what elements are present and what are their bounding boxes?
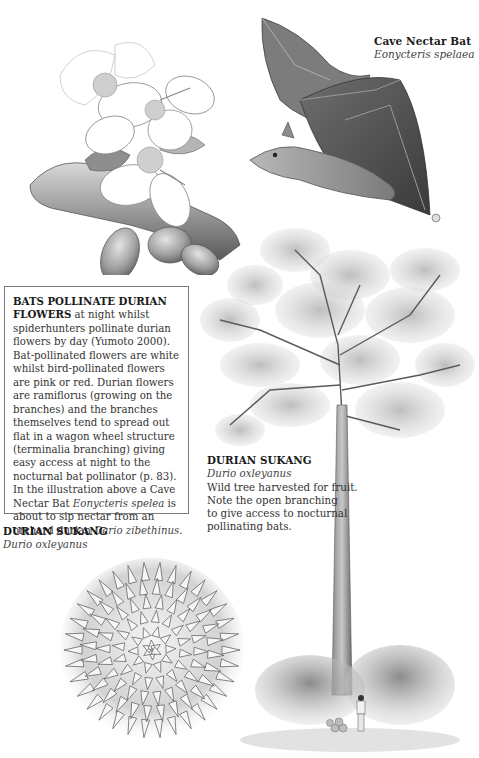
fruit-caption-title: DURIAN SUKANG — [3, 525, 108, 538]
tree-caption-latin: Durio oxleyanus — [207, 467, 358, 480]
bat-pollination-info-box: BATS POLLINATE DURIAN FLOWERS at night w… — [4, 286, 189, 514]
bat-caption-latin: Eonycteris spelaea — [374, 48, 475, 61]
tree-caption: DURIAN SUKANG Durio oxleyanus Wild tree … — [207, 454, 358, 534]
fruit-caption: DURIAN SUKANG Durio oxleyanus — [3, 525, 108, 552]
tree-caption-line-2: Note the open branching — [207, 494, 358, 507]
info-box-text-1: at night whilst spiderhunters pollinate … — [13, 309, 179, 481]
bat-caption: Cave Nectar Bat Eonycteris spelaea — [374, 35, 475, 62]
tree-caption-line-3: to give access to nocturnal — [207, 507, 358, 520]
spiky-durian-fruit-illustration — [50, 555, 255, 750]
fruit-caption-latin: Durio oxleyanus — [3, 538, 108, 551]
bat-caption-title: Cave Nectar Bat — [374, 35, 475, 48]
tree-caption-line-1: Wild tree harvested for fruit. — [207, 481, 358, 494]
info-box-text-4: . — [179, 525, 182, 536]
tree-caption-title: DURIAN SUKANG — [207, 454, 358, 467]
info-box-latin-1: Eonycteris spelea — [73, 498, 164, 509]
tree-caption-line-4: pollinating bats. — [207, 520, 358, 533]
